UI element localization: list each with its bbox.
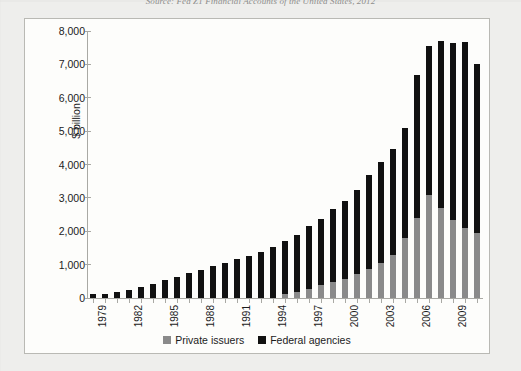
bar-segment-federal-agencies — [330, 209, 337, 282]
bar-segment-federal-agencies — [126, 290, 133, 298]
bar-segment-federal-agencies — [426, 46, 433, 195]
bar-segment-federal-agencies — [198, 270, 205, 298]
bar-column — [90, 294, 97, 298]
bar-segment-federal-agencies — [438, 41, 445, 208]
x-axis-tick-mark — [201, 299, 202, 303]
y-axis-tick-label: 1,000 — [59, 259, 85, 271]
x-axis-tick-label: 1997 — [313, 305, 324, 327]
y-axis-tick-label: 3,000 — [59, 192, 85, 204]
x-axis-tick-mark — [189, 299, 190, 303]
x-axis-tick-label: 2009 — [457, 305, 468, 327]
legend-item[interactable]: Private issuers — [163, 335, 244, 345]
bar-segment-federal-agencies — [474, 64, 481, 233]
bar-column — [414, 75, 421, 298]
x-axis-tick-label: 1988 — [205, 305, 216, 327]
x-axis-tick-mark — [441, 299, 442, 303]
bar-segment-federal-agencies — [354, 190, 361, 274]
x-axis-tick-mark — [429, 299, 430, 303]
bar-segment-private-issuers — [402, 238, 409, 298]
bar-segment-federal-agencies — [234, 259, 241, 298]
x-axis-tick-mark — [453, 299, 454, 303]
bar-column — [390, 149, 397, 299]
y-axis-tick-label: 5,000 — [59, 125, 85, 137]
bar-segment-federal-agencies — [102, 294, 109, 298]
x-axis-tick-mark — [465, 299, 466, 303]
legend-label: Private issuers — [175, 335, 244, 345]
bar-segment-private-issuers — [450, 220, 457, 298]
bar-segment-federal-agencies — [258, 252, 265, 298]
bar-column — [330, 209, 337, 298]
x-axis-tick-label: 2003 — [385, 305, 396, 327]
y-axis-tick-label: 2,000 — [59, 225, 85, 237]
bar-segment-private-issuers — [354, 274, 361, 298]
bar-segment-federal-agencies — [378, 162, 385, 263]
bar-column — [294, 235, 301, 298]
bar-segment-federal-agencies — [174, 277, 181, 298]
x-axis-tick-mark — [237, 299, 238, 303]
bar-segment-private-issuers — [342, 279, 349, 298]
x-axis-tick-mark — [393, 299, 394, 303]
x-axis-tick-mark — [225, 299, 226, 303]
bar-segment-private-issuers — [438, 208, 445, 298]
bar-column — [258, 252, 265, 298]
x-axis-tick-mark — [93, 299, 94, 303]
y-axis-tick-label: 6,000 — [59, 92, 85, 104]
bar-column — [342, 201, 349, 298]
bar-column — [114, 292, 121, 298]
bar-segment-federal-agencies — [342, 201, 349, 278]
bar-column — [378, 162, 385, 298]
bar-column — [186, 273, 193, 298]
x-axis-tick-mark — [417, 299, 418, 303]
bar-segment-federal-agencies — [138, 287, 145, 298]
bar-column — [246, 256, 253, 298]
bar-segment-federal-agencies — [462, 42, 469, 228]
bar-column — [426, 46, 433, 298]
chart-plot-area: $ billion 01,0002,0003,0004,0005,0006,00… — [25, 19, 489, 353]
x-axis-tick-label: 2000 — [349, 305, 360, 327]
bar-column — [126, 290, 133, 298]
bar-segment-federal-agencies — [450, 43, 457, 220]
x-axis-tick-mark — [285, 299, 286, 303]
legend-item[interactable]: Federal agencies — [258, 335, 351, 345]
x-axis-tick-mark — [345, 299, 346, 303]
x-axis-tick-label: 1994 — [277, 305, 288, 327]
bar-segment-federal-agencies — [282, 241, 289, 294]
x-axis-tick-mark — [381, 299, 382, 303]
bar-series-group — [87, 31, 483, 298]
x-axis-tick-mark — [261, 299, 262, 303]
bar-segment-federal-agencies — [414, 75, 421, 218]
bar-segment-federal-agencies — [306, 226, 313, 289]
bar-segment-private-issuers — [414, 218, 421, 298]
bar-column — [198, 270, 205, 298]
bar-column — [210, 266, 217, 298]
y-axis-tick-label: 7,000 — [59, 58, 85, 70]
bar-segment-federal-agencies — [90, 294, 97, 298]
x-axis-tick-mark — [249, 299, 250, 303]
bar-column — [162, 280, 169, 298]
bar-segment-private-issuers — [318, 285, 325, 298]
y-axis-tick-label: 4,000 — [59, 159, 85, 171]
bar-column — [138, 287, 145, 298]
x-axis-tick-mark — [165, 299, 166, 303]
bar-segment-federal-agencies — [294, 235, 301, 292]
bar-column — [366, 175, 373, 298]
bar-column — [462, 42, 469, 298]
bar-segment-private-issuers — [294, 292, 301, 298]
bar-column — [306, 226, 313, 298]
x-axis-tick-mark — [357, 299, 358, 303]
x-axis-tick-mark — [273, 299, 274, 303]
bar-column — [222, 263, 229, 298]
bar-column — [282, 241, 289, 298]
bar-segment-private-issuers — [390, 255, 397, 298]
x-axis-tick-mark — [405, 299, 406, 303]
bar-segment-private-issuers — [462, 228, 469, 298]
x-axis-tick-label: 1985 — [169, 305, 180, 327]
bar-segment-private-issuers — [306, 289, 313, 298]
x-axis-tick-mark — [309, 299, 310, 303]
figure-frame: $ billion 01,0002,0003,0004,0005,0006,00… — [24, 18, 490, 354]
bar-column — [450, 43, 457, 298]
bar-column — [438, 41, 445, 298]
x-axis-tick-label: 2006 — [421, 305, 432, 327]
x-axis-tick-mark — [153, 299, 154, 303]
source-caption: Source: Fed Z1 Financial Accounts of the… — [0, 0, 521, 7]
